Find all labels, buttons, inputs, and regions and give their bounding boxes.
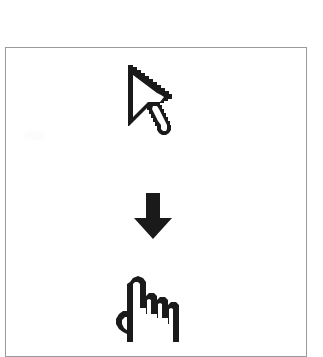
down-arrow-icon [132,191,174,241]
mouse-pointer-cursor-icon [124,63,176,151]
pointing-hand-cursor-icon [114,274,184,342]
